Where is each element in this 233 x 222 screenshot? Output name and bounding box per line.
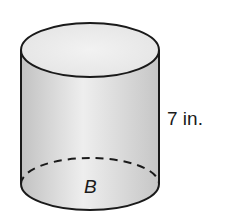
height-label: 7 in.	[167, 108, 203, 129]
cylinder-diagram: 7 in. B	[0, 0, 233, 222]
top-face	[21, 23, 159, 77]
base-label: B	[84, 176, 97, 197]
